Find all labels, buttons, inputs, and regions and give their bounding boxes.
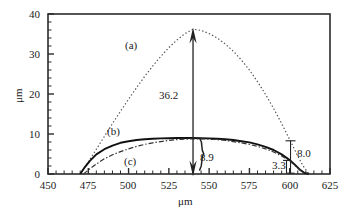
xtick-label-550: 550 bbox=[194, 180, 224, 191]
xtick-label-525: 525 bbox=[154, 180, 184, 191]
ytick-label-40: 40 bbox=[18, 9, 40, 20]
data-curves bbox=[80, 29, 309, 174]
annotation-8-0: 8.0 bbox=[297, 148, 311, 159]
xtick-label-500: 500 bbox=[113, 180, 143, 191]
annotation-36-2: 36.2 bbox=[159, 90, 178, 101]
xtick-label-575: 575 bbox=[234, 180, 264, 191]
y-axis-title: μm bbox=[12, 89, 24, 103]
xtick-label-475: 475 bbox=[73, 180, 103, 191]
xtick-label-625: 625 bbox=[315, 180, 345, 191]
annotation-8-9: 8.9 bbox=[200, 152, 214, 163]
ytick-label-0: 0 bbox=[18, 169, 40, 180]
ytick-label-10: 10 bbox=[18, 129, 40, 140]
x-axis-title: μm bbox=[178, 196, 192, 207]
ytick-label-30: 30 bbox=[18, 49, 40, 60]
curve-label-b: (b) bbox=[107, 126, 120, 137]
xtick-label-450: 450 bbox=[33, 180, 63, 191]
annotation-3-3: 3.3 bbox=[272, 160, 286, 171]
axis-ticks bbox=[48, 14, 330, 174]
curve-label-a: (a) bbox=[125, 40, 137, 51]
curve-label-c: (c) bbox=[124, 156, 136, 167]
xtick-label-600: 600 bbox=[275, 180, 305, 191]
plot-frame bbox=[48, 14, 330, 174]
chart-figure: 40 30 20 10 0 450 475 500 525 550 575 60… bbox=[0, 0, 357, 214]
